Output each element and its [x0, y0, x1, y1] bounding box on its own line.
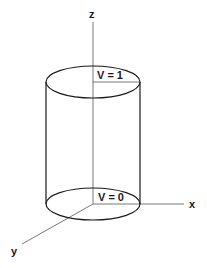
y-axis	[22, 204, 93, 244]
bottom-potential-label: V = 0	[98, 191, 124, 203]
z-axis-label: z	[89, 8, 95, 20]
top-potential-label: V = 1	[97, 69, 123, 81]
y-axis-label: y	[11, 245, 18, 257]
x-axis-label: x	[189, 198, 196, 210]
cylinder-diagram: z x y V = 1 V = 0	[0, 0, 207, 268]
